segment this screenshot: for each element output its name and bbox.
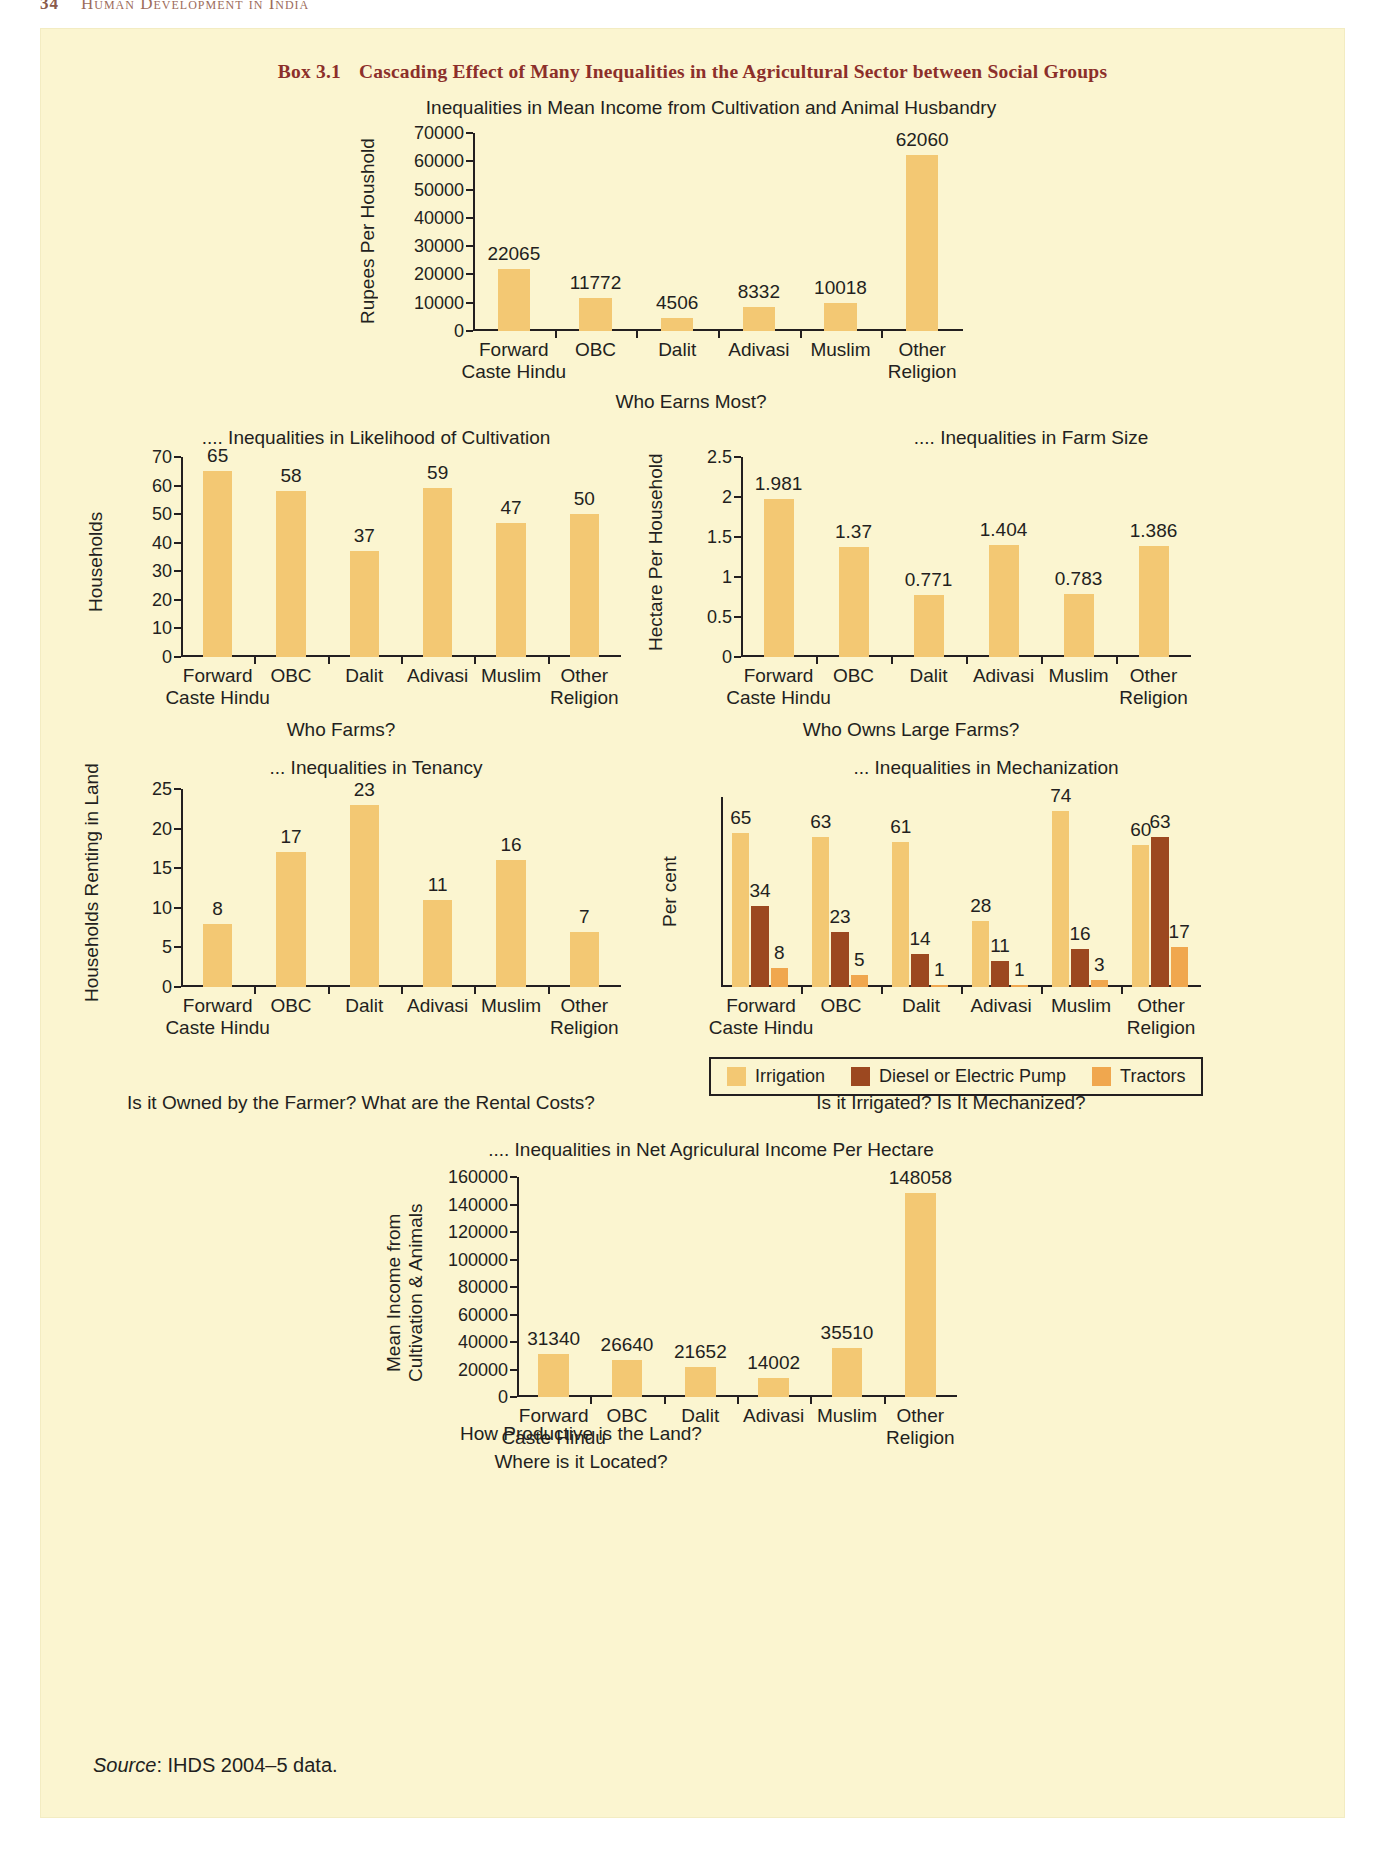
plot-area-tenancy: 05101520258172311167 (181, 789, 621, 987)
bar (892, 842, 909, 987)
bar-value-label: 4506 (656, 292, 698, 314)
bar (824, 303, 857, 331)
y-tick-mark (466, 245, 473, 247)
bar-value-label: 0.771 (905, 569, 953, 591)
bar-value-label: 74 (1050, 785, 1071, 807)
x-tick-mark (891, 657, 893, 664)
bar (914, 595, 944, 657)
y-axis-farmsize (741, 457, 743, 657)
y-tick-mark (466, 160, 473, 162)
y-axis-tenancy (181, 789, 183, 987)
box-label: Box 3.1 (278, 61, 341, 82)
plot-area-mechanization: 6534863235611412811174163606317 (721, 797, 1201, 987)
x-category-label: Adivasi (970, 995, 1031, 1017)
bar (498, 269, 531, 331)
y-tick-mark (174, 656, 181, 658)
bar (1132, 845, 1149, 988)
page-running-header: 34Human Development in India (40, 0, 309, 14)
box-3-1-container: Box 3.1Cascading Effect of Many Inequali… (40, 28, 1345, 1818)
caption-tenancy: Is it Owned by the Farmer? What are the … (61, 1092, 661, 1114)
x-category-label: Adivasi (728, 339, 789, 361)
x-category-label: Dalit (345, 995, 383, 1017)
x-category-label: OtherReligion (1127, 995, 1196, 1040)
y-axis-label-netincome: Mean Income from Cultivation & Animals (383, 1173, 439, 1413)
chart-likelihood-cultivation: .... Inequalities in Likelihood of Culti… (71, 427, 681, 747)
bar-value-label: 61 (890, 816, 911, 838)
bar-value-label: 63 (1149, 811, 1170, 833)
x-category-label: Adivasi (407, 995, 468, 1017)
x-category-label: Adivasi (973, 665, 1034, 687)
x-tick-mark (1041, 657, 1043, 664)
plot-area-netincome: 0200004000060000800001000001200001400001… (517, 1177, 957, 1397)
bar (570, 932, 599, 987)
y-tick-mark (510, 1314, 517, 1316)
y-tick-mark (466, 330, 473, 332)
bar (203, 924, 232, 987)
x-category-label: Muslim (1048, 665, 1108, 687)
caption-farmsize: Who Owns Large Farms? (741, 719, 1081, 741)
y-tick-mark (174, 907, 181, 909)
chart-title-mechanization: ... Inequalities in Mechanization (761, 757, 1211, 779)
bar (906, 155, 939, 331)
y-axis-income (473, 133, 475, 331)
bar (1064, 594, 1094, 657)
y-tick-mark (734, 496, 741, 498)
x-tick-mark (474, 657, 476, 664)
caption-mechanization: Is it Irrigated? Is It Mechanized? (681, 1092, 1221, 1114)
y-tick-label: 30000 (414, 236, 473, 257)
y-tick-mark (734, 456, 741, 458)
x-tick-mark (1041, 987, 1043, 994)
chart-farm-size: .... Inequalities in Farm Size Hectare P… (631, 427, 1311, 747)
x-category-label: Muslim (1051, 995, 1111, 1017)
y-tick-mark (510, 1259, 517, 1261)
bar-value-label: 23 (829, 906, 850, 928)
y-tick-label: 20000 (414, 264, 473, 285)
plot-area-income: 0100002000030000400005000060000700002206… (473, 133, 963, 331)
x-tick-mark (737, 1397, 739, 1404)
bar (350, 551, 379, 657)
y-tick-mark (174, 542, 181, 544)
bar (496, 523, 525, 657)
bar-value-label: 14 (909, 928, 930, 950)
y-axis-label-farmsize: Hectare Per Household (645, 471, 667, 651)
legend-label-pump: Diesel or Electric Pump (879, 1066, 1066, 1087)
bar-value-label: 1 (1014, 959, 1025, 981)
x-tick-mark (1116, 657, 1118, 664)
y-tick-mark (510, 1369, 517, 1371)
chart-title-income: Inequalities in Mean Income from Cultiva… (341, 97, 1081, 119)
chart-tenancy: ... Inequalities in Tenancy Households R… (71, 757, 681, 1117)
y-tick-mark (510, 1341, 517, 1343)
y-tick-label: 100000 (448, 1249, 517, 1270)
x-tick-mark (474, 987, 476, 994)
x-tick-mark (881, 331, 883, 338)
bar (831, 932, 848, 987)
bar (1011, 985, 1028, 987)
y-tick-mark (174, 986, 181, 988)
y-axis-cultivation (181, 457, 183, 657)
bar-value-label: 1.386 (1130, 520, 1178, 542)
bar (758, 1378, 789, 1397)
source-prefix: Source (93, 1754, 156, 1776)
x-category-label: OBC (575, 339, 616, 361)
y-tick-mark (466, 189, 473, 191)
y-tick-label: 60000 (458, 1304, 517, 1325)
x-tick-mark (590, 1397, 592, 1404)
x-category-label: OtherReligion (888, 339, 957, 384)
bar (1171, 947, 1188, 987)
caption-income: Who Earns Most? (541, 391, 841, 413)
legend-item-pump: Diesel or Electric Pump (851, 1066, 1066, 1087)
bar-value-label: 59 (427, 462, 448, 484)
bar-value-label: 31340 (527, 1328, 580, 1350)
x-category-label: OBC (270, 665, 311, 687)
bar (905, 1193, 936, 1397)
running-title: Human Development in India (81, 0, 309, 13)
bar-value-label: 50 (574, 488, 595, 510)
bar-value-label: 47 (500, 497, 521, 519)
x-category-label: Dalit (345, 665, 383, 687)
bar (732, 833, 749, 987)
x-tick-mark (636, 331, 638, 338)
bar-value-label: 22065 (487, 243, 540, 265)
x-category-label: OtherReligion (550, 665, 619, 710)
bar (972, 921, 989, 988)
bar (991, 961, 1008, 987)
